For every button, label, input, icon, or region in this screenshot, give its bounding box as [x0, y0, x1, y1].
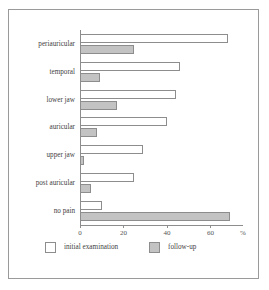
bar-group: no pain: [80, 197, 245, 225]
bar-group: post auricular: [80, 169, 245, 197]
x-tick-mark: [167, 225, 168, 228]
x-tick-label: 40: [163, 229, 170, 238]
bar-follow-up: [80, 184, 91, 193]
category-label: auricular: [49, 123, 75, 132]
bar-initial-examination: [80, 117, 167, 126]
x-tick-mark: [210, 225, 211, 228]
x-tick-label: 60: [207, 229, 214, 238]
category-label: periauricular: [38, 39, 75, 48]
bar-pair: [80, 117, 245, 137]
x-tick-label: 20: [120, 229, 127, 238]
category-label: temporal: [49, 67, 75, 76]
chart-legend: initial examination follow-up: [9, 242, 260, 262]
bar-pair: [80, 34, 245, 54]
category-label: no pain: [54, 207, 75, 216]
bar-initial-examination: [80, 90, 176, 99]
bar-initial-examination: [80, 34, 228, 43]
bar-initial-examination: [80, 201, 102, 210]
x-axis-line: [80, 225, 243, 226]
bar-group: auricular: [80, 114, 245, 142]
x-tick-mark: [80, 225, 81, 228]
bar-pair: [80, 145, 245, 165]
bar-follow-up: [80, 45, 134, 54]
x-axis-unit-label: %: [240, 229, 246, 238]
x-tick-label: 0: [78, 229, 82, 238]
bar-initial-examination: [80, 62, 180, 71]
bar-follow-up: [80, 212, 230, 221]
legend-swatch-initial-examination: [45, 242, 56, 253]
category-label: upper jaw: [46, 151, 75, 160]
bar-pair: [80, 173, 245, 193]
legend-item-follow-up: follow-up: [149, 242, 196, 253]
legend-swatch-follow-up: [149, 242, 160, 253]
bar-follow-up: [80, 128, 97, 137]
category-label: post auricular: [36, 179, 75, 188]
legend-label-follow-up: follow-up: [168, 242, 196, 253]
x-tick-mark: [123, 225, 124, 228]
bar-group: lower jaw: [80, 86, 245, 114]
bar-initial-examination: [80, 173, 134, 182]
bar-pair: [80, 62, 245, 82]
bar-group: upper jaw: [80, 141, 245, 169]
bar-follow-up: [80, 101, 117, 110]
bar-pair: [80, 90, 245, 110]
legend-label-initial-examination: initial examination: [64, 242, 118, 253]
legend-item-initial-examination: initial examination: [45, 242, 118, 253]
bar-pair: [80, 201, 245, 221]
bar-initial-examination: [80, 145, 143, 154]
category-label: lower jaw: [46, 95, 75, 104]
bar-group: periauricular: [80, 30, 245, 58]
bar-follow-up: [80, 156, 84, 165]
plot-area: periauriculartemporallower jawauricularu…: [80, 30, 245, 225]
chart-figure: periauriculartemporallower jawauricularu…: [8, 9, 259, 279]
bar-follow-up: [80, 73, 100, 82]
bar-group: temporal: [80, 58, 245, 86]
